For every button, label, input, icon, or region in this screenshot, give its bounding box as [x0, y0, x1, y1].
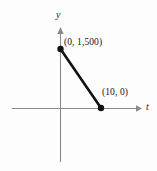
graph-figure: y t (0, 1,500) (10, 0) [0, 0, 157, 171]
point-marker-y-intercept [57, 46, 63, 52]
coordinate-plane-svg [0, 0, 157, 171]
y-axis-arrowhead [57, 27, 63, 34]
point-label-y-intercept: (0, 1,500) [64, 38, 102, 48]
point-marker-t-intercept [98, 105, 104, 111]
y-axis-label: y [56, 10, 60, 20]
t-axis-arrowhead [136, 105, 142, 111]
t-axis-label: t [146, 102, 149, 112]
line-segment [61, 49, 102, 108]
point-label-t-intercept: (10, 0) [102, 88, 128, 98]
